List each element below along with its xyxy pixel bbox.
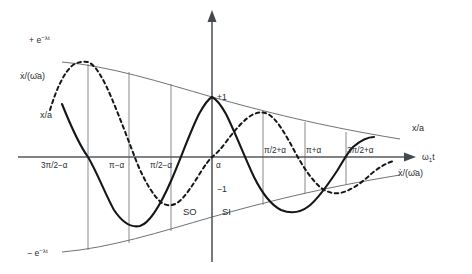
x-axis-label-tail: t — [432, 152, 435, 162]
tick-label-pi2-minus-alpha: π/2−α — [150, 161, 172, 170]
tick-label-pi2-plus-alpha: π/2+α — [264, 146, 286, 155]
displacement-label-left: x/a — [40, 110, 52, 120]
lower-envelope-curve — [62, 175, 400, 252]
upper-envelope-label-prefix: + e — [29, 35, 41, 45]
lower-envelope-label-exponent: −λt — [39, 247, 48, 254]
upper-envelope-label: + e−λt — [29, 34, 50, 45]
velocity-label-left: ẋ/(ω̄a) — [20, 71, 45, 81]
tick-label-pi-plus-alpha: π+α — [306, 146, 321, 155]
y-negative-label: −1 — [217, 184, 227, 194]
tick-label-pi-minus-alpha: π−α — [109, 161, 124, 170]
lower-envelope-label: − e−λt — [27, 247, 48, 258]
damped-oscillation-diagram: +1 −1 ω1t 3π/2−α π−α π/2−α α π/2+α π+α 3… — [0, 0, 472, 274]
x-axis-arrowhead — [404, 153, 416, 162]
tick-label-3pi2-minus-alpha: 3π/2−α — [41, 161, 68, 170]
upper-envelope-label-exponent: −λt — [41, 34, 50, 41]
y-axis-arrowhead — [208, 10, 217, 22]
velocity-label-right: ẋ/(ω̄a) — [398, 168, 423, 178]
region-label-si: SI — [222, 206, 231, 217]
tick-label-alpha: α — [216, 161, 221, 170]
tick-label-3pi2-plus-alpha: 3π/2+α — [347, 146, 374, 155]
lower-envelope-label-prefix: − e — [27, 248, 39, 258]
x-axis-label: ω1t — [422, 152, 435, 163]
region-label-so: SO — [183, 206, 197, 217]
y-positive-label: +1 — [217, 92, 227, 102]
displacement-label-right: x/a — [412, 123, 424, 133]
